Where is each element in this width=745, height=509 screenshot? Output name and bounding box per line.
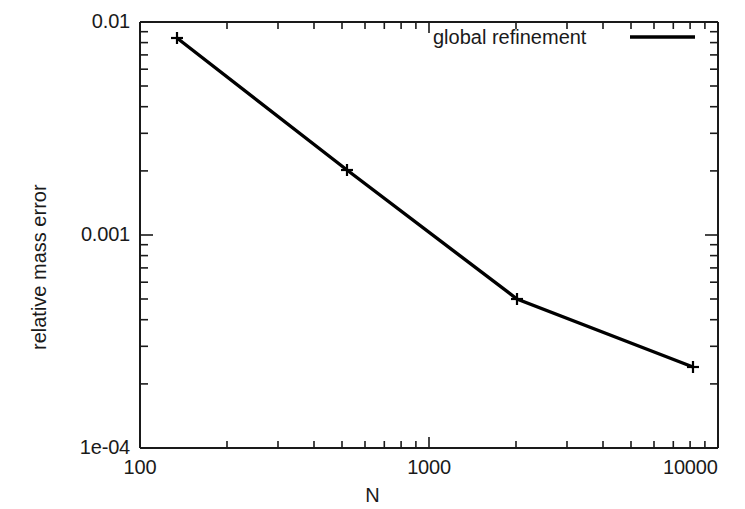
x-tick-label-1: 1000 <box>379 456 479 479</box>
plot-svg <box>0 0 745 509</box>
x-axis-title: N <box>0 484 745 507</box>
legend-entry-label: global refinement <box>433 26 586 49</box>
data-point-markers <box>171 32 699 373</box>
y-tick-label-0: 0.01 <box>30 10 130 33</box>
y-axis-ticks <box>140 22 718 448</box>
x-tick-label-2: 10000 <box>663 456 745 479</box>
y-axis-title: relative mass error <box>28 184 51 350</box>
series-global-refinement <box>171 32 699 373</box>
figure-canvas: 0.01 0.001 1e-04 100 1000 10000 relative… <box>0 0 745 509</box>
x-axis-ticks <box>140 22 718 448</box>
x-tick-label-0: 100 <box>90 456 190 479</box>
plot-frame <box>140 22 718 448</box>
